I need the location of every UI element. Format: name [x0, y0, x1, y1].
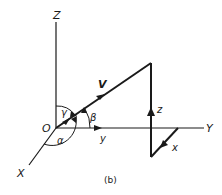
z-axis-label: Z	[52, 9, 61, 22]
z-component-arrowhead	[147, 107, 155, 116]
origin-label: O	[42, 122, 51, 135]
caption: (b)	[104, 175, 117, 185]
y-component-arrowhead	[94, 125, 102, 131]
y-axis-label: Y	[206, 122, 214, 135]
vector-v-label: V	[98, 78, 108, 91]
y-component-label: y	[99, 133, 107, 144]
vector-components-diagram: Z Y X O V γ β α y z x (b)	[0, 0, 222, 195]
beta-label: β	[89, 112, 97, 123]
z-component-label: z	[156, 104, 163, 115]
x-axis-label: X	[16, 167, 25, 180]
x-component-label: x	[171, 142, 178, 153]
alpha-label: α	[57, 135, 64, 146]
gamma-label: γ	[61, 107, 68, 118]
